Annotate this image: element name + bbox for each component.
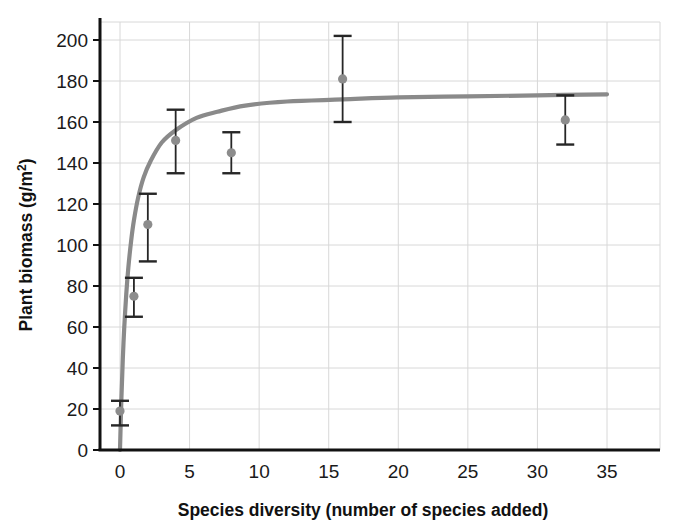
y-tick-label: 20 (67, 399, 88, 420)
x-tick-label: 5 (184, 461, 195, 482)
data-point-marker (115, 406, 124, 415)
x-tick-label: 10 (249, 461, 270, 482)
data-point-marker (171, 136, 180, 145)
data-point-marker (561, 115, 570, 124)
data-point-marker (227, 148, 236, 157)
y-tick-label: 80 (67, 276, 88, 297)
y-tick-label: 60 (67, 317, 88, 338)
grid-lines (100, 22, 660, 450)
x-tick-label: 25 (457, 461, 478, 482)
y-tick-label: 100 (56, 235, 88, 256)
y-tick-label: 140 (56, 153, 88, 174)
y-tick-label: 180 (56, 71, 88, 92)
x-tick-label: 35 (596, 461, 617, 482)
fit-curve-path (120, 94, 607, 450)
x-tick-label: 0 (115, 461, 126, 482)
y-tick-label: 0 (77, 440, 88, 461)
axis-spines (99, 18, 661, 450)
y-tick-label: 200 (56, 30, 88, 51)
x-axis-title: Species diversity (number of species add… (178, 500, 549, 520)
x-tick-label: 15 (318, 461, 339, 482)
y-tick-label: 160 (56, 112, 88, 133)
x-tick-label: 30 (527, 461, 548, 482)
y-tick-label: 40 (67, 358, 88, 379)
chart-page: 0204060801001201401601802000510152025303… (0, 0, 674, 530)
data-point-marker (143, 220, 152, 229)
svg-text:Plant biomass (g/m2): Plant biomass (g/m2) (15, 159, 36, 332)
y-tick-label: 120 (56, 194, 88, 215)
data-point-marker (338, 74, 347, 83)
y-axis-title: Plant biomass (g/m2) (15, 159, 36, 332)
fit-curve (120, 94, 607, 450)
x-tick-label: 20 (388, 461, 409, 482)
plant-biomass-chart: 0204060801001201401601802000510152025303… (0, 0, 674, 530)
data-point-marker (129, 292, 138, 301)
